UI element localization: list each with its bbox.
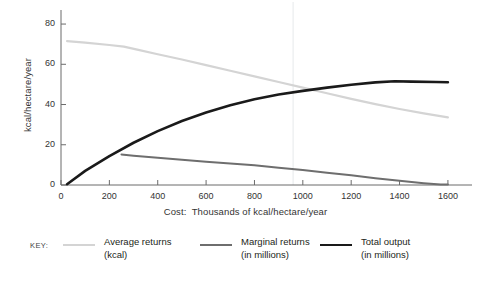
legend-label: Average returns(kcal) xyxy=(104,236,171,261)
series-line xyxy=(121,154,447,184)
x-tick-label: 400 xyxy=(138,191,178,201)
legend-sublabel: (in millions) xyxy=(361,249,410,262)
y-tick-label: 80 xyxy=(29,18,55,28)
x-tick-label: 800 xyxy=(234,191,274,201)
y-tick-label: 60 xyxy=(29,58,55,68)
legend-key-label: KEY: xyxy=(30,241,48,250)
y-axis-title: kcal/hectare/year xyxy=(22,5,33,185)
axis-ticks xyxy=(61,24,448,185)
chart-figure: kcal/hectare/year Cost: Thousands of kca… xyxy=(0,0,491,281)
legend-sublabel: (kcal) xyxy=(104,249,171,262)
legend-swatch-icon xyxy=(200,244,232,246)
x-axis-title: Cost: Thousands of kcal/hectare/year xyxy=(0,206,491,217)
x-tick-label: 1000 xyxy=(283,191,323,201)
x-tick-label: 1400 xyxy=(380,191,420,201)
chart-legend: KEY: Average returns(kcal)Marginal retur… xyxy=(0,236,491,276)
x-tick-label: 1200 xyxy=(331,191,371,201)
y-tick-label: 20 xyxy=(29,139,55,149)
x-tick-label: 1600 xyxy=(428,191,468,201)
y-tick-label: 0 xyxy=(29,179,55,189)
y-tick-label: 40 xyxy=(29,99,55,109)
x-tick-label: 0 xyxy=(41,191,81,201)
legend-swatch-icon xyxy=(63,244,95,246)
legend-label: Total output(in millions) xyxy=(361,236,410,261)
legend-swatch-icon xyxy=(320,244,352,246)
legend-sublabel: (in millions) xyxy=(241,249,310,262)
series-line xyxy=(67,41,448,117)
series-line xyxy=(67,81,448,184)
data-series-group xyxy=(67,41,448,184)
legend-label: Marginal returns(in millions) xyxy=(241,236,310,261)
x-tick-label: 200 xyxy=(89,191,129,201)
x-tick-label: 600 xyxy=(186,191,226,201)
